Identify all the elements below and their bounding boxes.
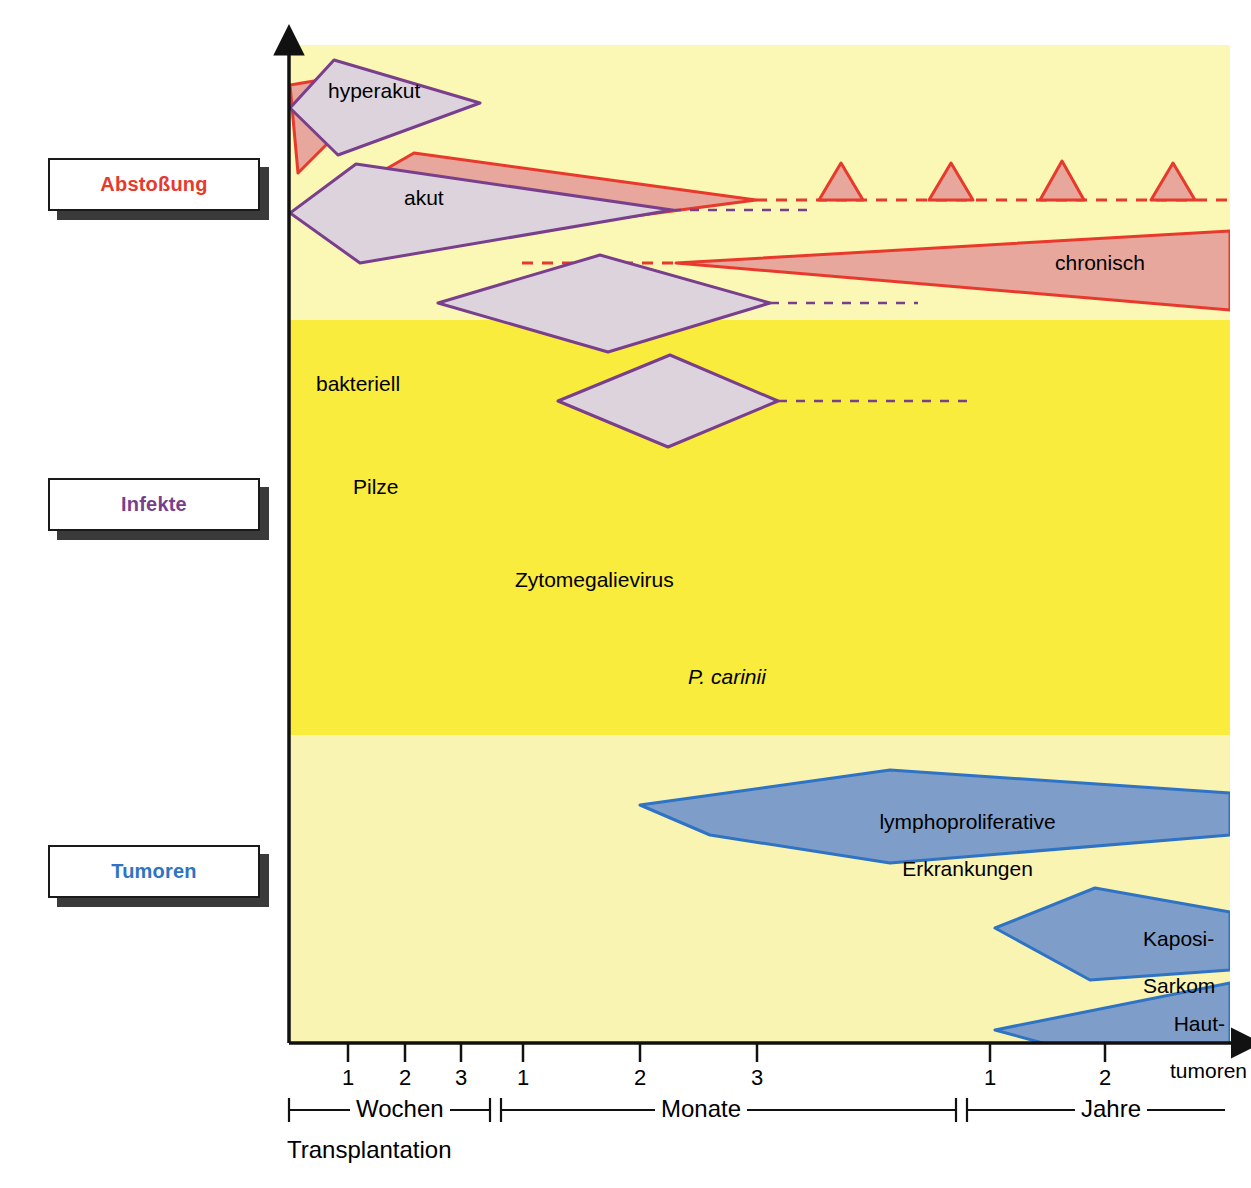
label-kaposi-sarkom-line1: Kaposi- (1143, 927, 1214, 950)
tick-label-monate-1: 1 (508, 1065, 538, 1091)
label-lymphoproliferative: lymphoproliferative Erkrankungen (830, 786, 1070, 904)
category-label-infekte-text: Infekte (121, 493, 187, 516)
label-hauttumoren: Haut- tumoren (1135, 988, 1225, 1106)
label-akut: akut (404, 186, 444, 210)
shape-chronisch (676, 231, 1230, 310)
figure-root: Abstoßung Infekte Tumoren (0, 0, 1251, 1188)
axis-unit-jahre: Jahre (1075, 1095, 1147, 1123)
label-hyperakut: hyperakut (328, 79, 420, 103)
tick-label-monate-2: 2 (625, 1065, 655, 1091)
label-bakteriell: bakteriell (316, 372, 400, 396)
origin-label-transplantation: Transplantation (287, 1136, 452, 1164)
tick-label-wochen-1: 1 (333, 1065, 363, 1091)
plot-area: hyperakut akut chronisch bakteriell Pilz… (290, 45, 1230, 1043)
x-axis-ticks (348, 1043, 1105, 1062)
category-label-abstossung: Abstoßung (48, 158, 260, 211)
axis-unit-monate: Monate (655, 1095, 747, 1123)
label-hauttumoren-line1: Haut- (1174, 1012, 1225, 1035)
shape-akut-episode-3 (1040, 161, 1084, 200)
category-label-abstossung-text: Abstoßung (100, 173, 207, 196)
tick-label-jahre-2: 2 (1090, 1065, 1120, 1091)
label-chronisch: chronisch (1055, 251, 1145, 275)
category-label-tumoren: Tumoren (48, 845, 260, 898)
axis-unit-wochen: Wochen (350, 1095, 450, 1123)
label-hauttumoren-line2: tumoren (1170, 1059, 1247, 1082)
shape-akut-episode-2 (929, 163, 973, 200)
tick-label-wochen-3: 3 (446, 1065, 476, 1091)
tick-label-wochen-2: 2 (390, 1065, 420, 1091)
category-label-tumoren-text: Tumoren (111, 860, 196, 883)
shape-akut-episode-4 (1151, 163, 1195, 200)
label-pilze: Pilze (353, 475, 399, 499)
tick-label-monate-3: 3 (742, 1065, 772, 1091)
tick-label-jahre-1: 1 (975, 1065, 1005, 1091)
shape-akut-episode-1 (819, 163, 863, 200)
shape-zytomegalievirus (438, 255, 770, 352)
label-lymphoproliferative-line2: Erkrankungen (902, 857, 1033, 880)
category-label-infekte: Infekte (48, 478, 260, 531)
shape-p-carinii (558, 355, 778, 447)
label-lymphoproliferative-line1: lymphoproliferative (879, 810, 1055, 833)
label-zytomegalievirus: Zytomegalievirus (515, 568, 674, 592)
label-p-carinii: P. carinii (688, 665, 766, 689)
